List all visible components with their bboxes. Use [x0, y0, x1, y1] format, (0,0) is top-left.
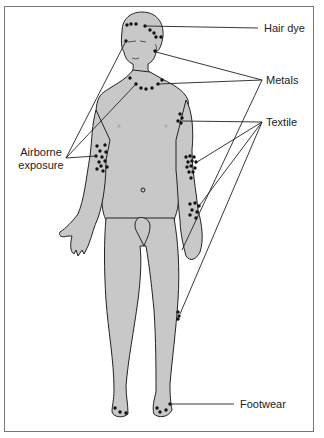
nipple — [164, 124, 167, 127]
body-diagram — [0, 0, 324, 438]
label-hair-dye: Hair dye — [264, 22, 305, 35]
label-airborne-line1: Airborne — [16, 146, 66, 159]
label-textile: Textile — [266, 116, 297, 129]
label-airborne-exposure: Airborne exposure — [16, 146, 66, 172]
label-metals: Metals — [266, 74, 298, 87]
nipple — [117, 124, 120, 127]
label-footwear: Footwear — [240, 398, 286, 411]
label-airborne-line2: exposure — [16, 159, 66, 172]
legs — [105, 218, 179, 417]
right-arm — [59, 110, 110, 256]
human-body-figure — [59, 12, 202, 417]
